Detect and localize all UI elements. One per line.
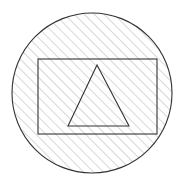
figure-container	[0, 0, 183, 187]
geometric-figure-svg	[0, 0, 183, 187]
circle-hatch-fill	[0, 0, 183, 187]
circle-hatch-fill-group	[0, 0, 183, 187]
